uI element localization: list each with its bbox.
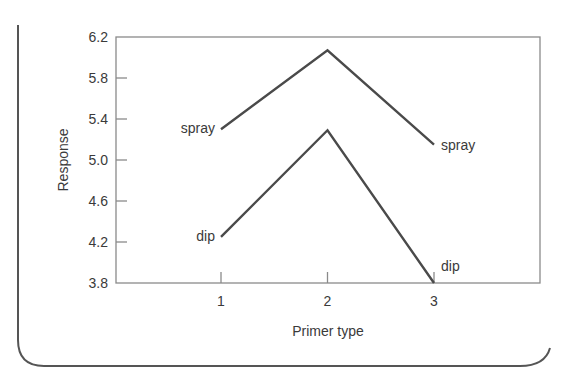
y-tick-label: 3.8	[89, 275, 109, 291]
y-tick-label: 4.6	[89, 193, 109, 209]
y-tick-label: 6.2	[89, 29, 109, 45]
x-tick-label: 2	[324, 293, 332, 309]
series-start-label-dip: dip	[196, 228, 215, 244]
x-axis-title: Primer type	[292, 323, 364, 339]
x-axis: 123	[217, 272, 438, 309]
series-end-label-spray: spray	[441, 137, 475, 153]
series-line-dip	[221, 130, 434, 283]
y-tick-label: 5.0	[89, 152, 109, 168]
y-axis: 6.25.85.45.04.64.23.8	[89, 29, 127, 291]
plot-area	[116, 37, 540, 283]
series-lines	[221, 50, 434, 283]
series-start-label-spray: spray	[181, 120, 215, 136]
y-tick-label: 5.8	[89, 70, 109, 86]
series-end-label-dip: dip	[441, 258, 460, 274]
x-tick-label: 3	[430, 293, 438, 309]
interaction-plot: 6.25.85.45.04.64.23.8 123 sprayspraydipd…	[0, 0, 569, 383]
y-tick-label: 5.4	[89, 111, 109, 127]
x-tick-label: 1	[217, 293, 225, 309]
y-tick-label: 4.2	[89, 234, 109, 250]
y-axis-title: Response	[55, 128, 71, 191]
